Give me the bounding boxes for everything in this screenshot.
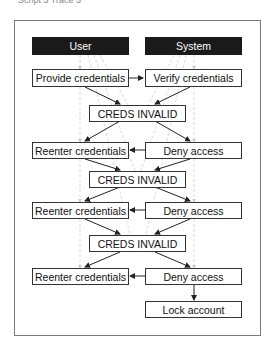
node-creds-invalid-3: CREDS INVALID [89, 235, 186, 252]
node-reenter-credentials-2: Reenter credentials [32, 202, 129, 219]
node-deny-access-2: Deny access [145, 202, 242, 219]
node-creds-invalid-2: CREDS INVALID [89, 171, 186, 188]
node-reenter-credentials-1: Reenter credentials [32, 142, 129, 159]
node-deny-access-3: Deny access [145, 268, 242, 285]
node-deny-access-1: Deny access [145, 142, 242, 159]
node-creds-invalid-1: CREDS INVALID [89, 105, 186, 122]
node-lock-account: Lock account [145, 301, 242, 318]
node-reenter-credentials-3: Reenter credentials [32, 268, 129, 285]
node-provide-credentials: Provide credentials [32, 69, 129, 87]
lane-header-user: User [32, 37, 129, 55]
lane-header-system: System [145, 37, 242, 55]
node-verify-credentials: Verify credentials [145, 69, 242, 87]
